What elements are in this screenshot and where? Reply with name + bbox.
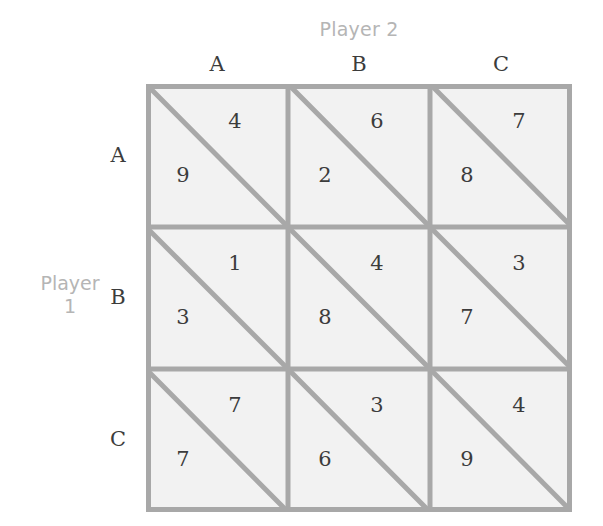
payoff-lower-a-a: 9 <box>168 162 198 188</box>
column-header-a: A <box>146 52 288 76</box>
payoff-upper-b-a: 1 <box>220 250 250 276</box>
payoff-lower-c-c: 9 <box>452 446 482 472</box>
payoff-upper-b-c: 3 <box>504 250 534 276</box>
payoff-lower-b-a: 3 <box>168 304 198 330</box>
payoff-upper-c-b: 3 <box>362 392 392 418</box>
payoff-lower-b-c: 7 <box>452 304 482 330</box>
payoff-lower-a-b: 2 <box>310 162 340 188</box>
column-header-b: B <box>288 52 430 76</box>
payoff-upper-a-a: 4 <box>220 108 250 134</box>
payoff-matrix-figure: Player 2 Player 1 A B C A B C <box>0 0 603 526</box>
payoff-lower-c-b: 6 <box>310 446 340 472</box>
column-header-c: C <box>430 52 572 76</box>
matrix-grid-svg <box>146 84 572 512</box>
payoff-lower-c-a: 7 <box>168 446 198 472</box>
payoff-lower-a-c: 8 <box>452 162 482 188</box>
payoff-upper-a-b: 6 <box>362 108 392 134</box>
row-header-b: B <box>98 284 138 310</box>
payoff-upper-a-c: 7 <box>504 108 534 134</box>
player2-title: Player 2 <box>146 18 572 40</box>
payoff-lower-b-b: 8 <box>310 304 340 330</box>
payoff-upper-b-b: 4 <box>362 250 392 276</box>
row-header-a: A <box>98 142 138 168</box>
row-header-c: C <box>98 426 138 452</box>
matrix-grid: 4 9 6 2 7 8 1 3 4 8 3 7 7 7 3 6 4 9 <box>146 84 572 512</box>
payoff-upper-c-c: 4 <box>504 392 534 418</box>
payoff-upper-c-a: 7 <box>220 392 250 418</box>
